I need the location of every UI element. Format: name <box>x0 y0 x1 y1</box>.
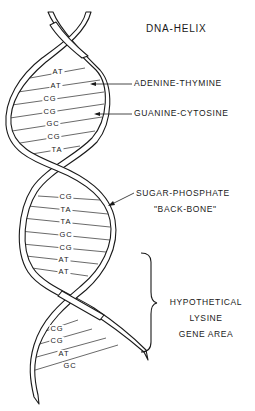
base-pair-label: CG <box>42 95 57 103</box>
base-pair-label: CG <box>58 244 73 252</box>
base-pair-label: GC <box>45 120 60 128</box>
base-pair-label: AT <box>49 82 62 90</box>
gene-area-label-line3: GENE AREA <box>160 329 252 339</box>
sugar-phosphate-label: SUGAR-PHOSPHATE <box>136 188 230 198</box>
gene-area-brace <box>141 253 157 352</box>
base-pair-label: AT <box>57 256 70 264</box>
diagram-title: DNA-HELIX <box>146 23 207 34</box>
backbone-label: "BACK-BONE" <box>154 204 217 214</box>
adenine-thymine-label: ADENINE-THYMINE <box>134 78 222 88</box>
gene-area-label-line2: LYSINE <box>160 313 252 323</box>
guanine-cytosine-label: GUANINE-CYTOSINE <box>134 108 228 118</box>
base-pair-label: CG <box>42 108 57 116</box>
base-pair-label: AT <box>51 68 64 76</box>
base-pair-label: AT <box>57 268 70 276</box>
base-pair-label: TA <box>59 206 72 214</box>
base-pair-label: AT <box>57 350 70 358</box>
base-pair-label: GC <box>58 231 73 239</box>
base-pair-label: CG <box>58 193 73 201</box>
base-pair-label: CG <box>49 337 64 345</box>
base-pair-label: CG <box>49 325 64 333</box>
base-pair-label: GC <box>62 362 77 370</box>
base-pair-label: TA <box>50 146 63 154</box>
dna-helix-drawing <box>0 0 255 411</box>
gene-area-label-line1: HYPOTHETICAL <box>160 297 252 307</box>
base-pair-label: CG <box>46 133 61 141</box>
base-pair-label: TA <box>59 218 72 226</box>
